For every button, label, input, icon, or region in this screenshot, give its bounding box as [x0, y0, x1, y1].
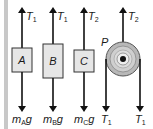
block-c-label: C [80, 55, 88, 67]
block-b-label: B [49, 55, 56, 67]
block-a-group: T1 A mAg [12, 10, 37, 126]
tension-label-a: T1 [26, 10, 37, 23]
pulley-tension-left-label: T1 [101, 113, 112, 126]
weight-label-b: mBg [43, 113, 64, 126]
free-body-diagram: T1 A mAg T1 B mBg T2 C mCg T2 P T1 T1 [0, 0, 153, 129]
pulley-tension-up-label: T2 [128, 10, 139, 23]
pulley-axle [120, 56, 126, 62]
block-b-group: T1 B mBg [43, 10, 68, 126]
pulley-group: T2 P T1 T1 [101, 10, 146, 126]
pulley-tension-right-label: T1 [135, 113, 146, 126]
weight-label-a: mAg [12, 113, 33, 126]
block-a-label: A [17, 54, 25, 66]
wall-bar [4, 0, 8, 129]
weight-label-c: mCg [74, 113, 95, 126]
pulley-label: P [101, 36, 109, 48]
tension-label-c: T2 [88, 10, 99, 23]
tension-label-b: T1 [57, 10, 68, 23]
block-c-group: T2 C mCg [74, 10, 99, 126]
